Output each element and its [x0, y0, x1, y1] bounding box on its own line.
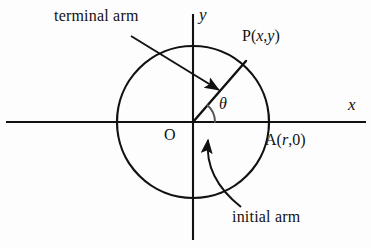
theta-label: θ — [219, 96, 227, 112]
x-axis-label: x — [348, 96, 356, 113]
origin-label: O — [164, 127, 176, 143]
initial-arm-label: initial arm — [232, 209, 300, 225]
terminal-arm-label: terminal arm — [54, 8, 139, 24]
point-p-close-paren: ) — [274, 27, 279, 44]
point-a-zero: 0 — [292, 131, 300, 148]
point-p-name: P — [242, 27, 251, 44]
terminal-arm-ray — [193, 61, 246, 122]
angle-diagram-figure: terminal arm initial arm y x P(x,y) A(r,… — [0, 0, 371, 248]
point-p-label: P(x,y) — [242, 28, 280, 44]
diagram-canvas — [0, 0, 371, 248]
initial-arm-pointer — [208, 140, 241, 207]
point-a-close-paren: ) — [300, 131, 305, 148]
point-a-name: A — [265, 131, 277, 148]
point-a-label: A(r,0) — [265, 132, 305, 148]
theta-arc — [208, 105, 216, 122]
y-axis-label: y — [199, 6, 207, 23]
